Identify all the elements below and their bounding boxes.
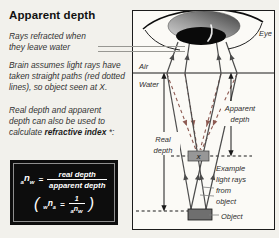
equals-sign: = bbox=[60, 200, 65, 209]
eye-icon bbox=[143, 11, 263, 50]
arrowhead-icon bbox=[228, 53, 235, 61]
equals-sign: = bbox=[38, 175, 43, 184]
arrowhead-icon bbox=[211, 120, 218, 127]
pupil bbox=[176, 27, 226, 45]
note-line: they leave water bbox=[9, 42, 86, 53]
leader-line-icon bbox=[98, 46, 185, 52]
x-marker: X bbox=[195, 153, 201, 160]
arrowhead-icon bbox=[161, 73, 166, 79]
note-brain-assumes: Brain assumes light rays have taken stra… bbox=[9, 60, 125, 93]
air-label: Air bbox=[138, 62, 149, 71]
fraction-denominator: apparent depth bbox=[47, 179, 107, 190]
close-paren: ) bbox=[89, 197, 94, 211]
real-depth-label: Real bbox=[155, 135, 171, 144]
sub-w: w bbox=[78, 208, 83, 214]
water-label: Water bbox=[139, 80, 159, 89]
example-rays-label: Example bbox=[216, 164, 245, 173]
refractive-index-symbol: anw bbox=[21, 173, 35, 187]
fraction-numerator: real depth bbox=[57, 170, 98, 179]
sub-a: a bbox=[53, 203, 56, 209]
fraction: real depth apparent depth bbox=[47, 170, 107, 190]
object-rect bbox=[188, 209, 212, 220]
arrowhead-icon bbox=[169, 53, 176, 61]
note-line: lines), so object seen at X. bbox=[9, 82, 125, 93]
arrowhead-icon bbox=[228, 150, 233, 156]
example-rays-label: from bbox=[216, 186, 231, 195]
arrowhead-icon bbox=[183, 120, 190, 127]
fraction-denominator: anw bbox=[69, 203, 85, 215]
formula-inner-frame: anw = real depth apparent depth ( wna = … bbox=[13, 163, 115, 222]
figure-apparent-depth: Apparent depth Rays refracted when they … bbox=[0, 0, 279, 238]
inverse-index-symbol: wna bbox=[43, 199, 56, 212]
note-text: *: bbox=[106, 127, 114, 137]
formula-main: anw = real depth apparent depth bbox=[14, 170, 114, 190]
object-label: Object bbox=[221, 212, 244, 221]
example-rays-label: object bbox=[216, 197, 237, 206]
note-bold-text: refractive index bbox=[44, 127, 106, 137]
apparent-depth-label: depth bbox=[231, 115, 250, 124]
real-depth-label: depth bbox=[154, 146, 173, 155]
fraction-numerator: 1 bbox=[73, 195, 81, 203]
arrowhead-icon bbox=[161, 205, 166, 211]
arrowhead-icon bbox=[228, 73, 233, 79]
example-rays-label: light rays bbox=[216, 175, 246, 184]
note-line: calculate refractive index *: bbox=[9, 127, 114, 138]
eye-label: Eye bbox=[259, 29, 272, 38]
note-line: Real depth and apparent bbox=[9, 105, 114, 116]
sub-w: w bbox=[30, 179, 35, 185]
apparent-depth-diagram: X Eye Air Water Real depth bbox=[133, 11, 274, 229]
leader-line-icon bbox=[202, 187, 214, 188]
note-refractive-index: Real depth and apparent depth can also b… bbox=[9, 105, 114, 138]
diagram-panel: X Eye Air Water Real depth bbox=[132, 10, 275, 230]
formula-box: anw = real depth apparent depth ( wna = … bbox=[10, 160, 118, 225]
open-paren: ( bbox=[34, 197, 39, 211]
fraction: 1 anw bbox=[69, 195, 85, 215]
formula-inverse: ( wna = 1 anw ) bbox=[14, 195, 114, 215]
red-ray-arrowheads bbox=[183, 120, 218, 127]
note-line: Brain assumes light rays have bbox=[9, 60, 125, 71]
leader-line-icon bbox=[200, 195, 214, 196]
page-title: Apparent depth bbox=[9, 9, 95, 21]
apparent-depth-label: Apparent bbox=[224, 104, 256, 113]
note-line: depth can also be used to bbox=[9, 116, 114, 127]
note-line: Rays refracted when bbox=[9, 31, 86, 42]
note-line: taken straight paths (red dotted bbox=[9, 71, 125, 82]
note-text: calculate bbox=[9, 127, 44, 137]
note-rays-refracted: Rays refracted when they leave water bbox=[9, 31, 86, 53]
